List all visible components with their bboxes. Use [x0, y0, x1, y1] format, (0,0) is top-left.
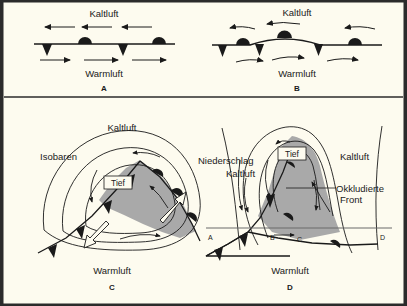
figure-canvas: Kaltluft Warmluft A — [0, 0, 407, 306]
figure-cyclone-development: Kaltluft Warmluft A — [0, 0, 407, 306]
panel-c-low-label: Tief — [104, 176, 132, 189]
panel-a-letter: A — [101, 84, 107, 93]
panel-d-occluded-front-label-line2: Front — [340, 194, 363, 205]
panel-d-occluded-front-label-line1: Okkludierte — [336, 183, 384, 194]
panel-d-tick-d: D — [380, 234, 385, 241]
panel-d-tick-c: C — [297, 236, 302, 243]
panel-d-low-label: Tief — [278, 147, 306, 160]
panel-d-cold-air-left-label: Kaltluft — [226, 168, 255, 179]
panel-a-warm-air-label: Warmluft — [85, 68, 123, 79]
panel-d-cold-air-right-label: Kaltluft — [340, 151, 369, 162]
panel-a-cold-air-label: Kaltluft — [89, 8, 118, 19]
panel-d-letter: D — [287, 283, 293, 292]
panel-c-cold-air-label: Kaltluft — [107, 122, 136, 133]
panel-b-cold-air-label: Kaltluft — [282, 7, 311, 18]
panel-b-letter: B — [294, 84, 300, 93]
panel-b-warm-air-label: Warmluft — [278, 68, 316, 79]
panel-c-warm-air-label: Warmluft — [93, 265, 131, 276]
panel-d-tick-a: A — [208, 234, 213, 241]
panel-d-warm-air-label: Warmluft — [271, 265, 309, 276]
panel-c-precipitation-label: Niederschlag — [198, 155, 253, 166]
panel-c-letter: C — [109, 283, 115, 292]
panel-d-low-text: Tief — [285, 149, 299, 159]
panel-c-low-text: Tief — [111, 178, 125, 188]
panel-c-isobars-label: Isobaren — [40, 151, 77, 162]
